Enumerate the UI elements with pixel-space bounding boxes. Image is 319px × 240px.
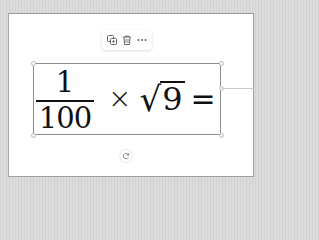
rotate-icon xyxy=(122,152,130,160)
fraction-numerator: 1 xyxy=(56,67,74,100)
copy-icon xyxy=(107,35,117,45)
fraction: 1 100 xyxy=(36,67,94,134)
square-root: √ 9 xyxy=(139,81,184,116)
fraction-denominator: 100 xyxy=(39,102,91,134)
floating-toolbar xyxy=(102,30,152,50)
more-horizontal-icon xyxy=(137,35,147,45)
equals-sign: = xyxy=(191,84,216,114)
resize-handle-top-right[interactable] xyxy=(219,61,224,66)
connector-line xyxy=(223,88,254,89)
trash-icon xyxy=(122,35,132,45)
resize-handle-top-left[interactable] xyxy=(31,61,36,66)
radical-sign: √ xyxy=(139,82,161,116)
duplicate-button[interactable] xyxy=(106,34,118,46)
times-operator: × xyxy=(108,84,131,114)
radicand: 9 xyxy=(160,81,184,115)
resize-handle-bottom-left[interactable] xyxy=(31,133,36,138)
resize-handle-bottom-right[interactable] xyxy=(219,133,224,138)
more-button[interactable] xyxy=(136,34,148,46)
math-equation[interactable]: 1 100 × √ 9 = xyxy=(36,62,220,135)
delete-button[interactable] xyxy=(121,34,133,46)
rotate-button[interactable] xyxy=(120,150,132,162)
